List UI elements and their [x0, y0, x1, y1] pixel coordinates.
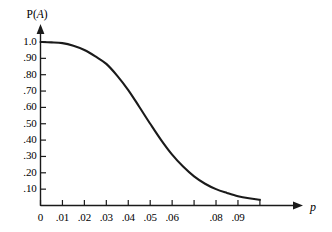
y-tick-label: .80: [23, 69, 36, 80]
x-axis-arrowhead: [293, 202, 303, 210]
y-tick-label: .40: [23, 134, 36, 145]
y-axis-title-p: P(: [27, 8, 37, 20]
chart-figure: P(A) p 1.0.90.80.70.60.50.40.30.20.10 0.…: [0, 0, 332, 232]
axes-group: [37, 24, 303, 209]
x-axis-title: p: [310, 201, 316, 213]
y-tick-label: .30: [23, 150, 36, 161]
y-axis-arrowhead: [37, 24, 45, 34]
y-axis-title: P(A): [27, 8, 48, 20]
chart-plot-area: [0, 0, 332, 232]
y-tick-label: .60: [23, 101, 36, 112]
y-tick-label: .90: [23, 52, 36, 63]
y-tick-label: .20: [23, 167, 36, 178]
y-axis-title-a: A: [37, 8, 44, 20]
data-curve-pa: [41, 42, 260, 200]
x-tick-label: .06: [152, 212, 192, 223]
x-tick-label: .09: [218, 212, 258, 223]
y-tick-label: .70: [23, 85, 36, 96]
y-axis-title-paren: ): [44, 8, 48, 20]
y-tick-label: .10: [23, 183, 36, 194]
y-tick-label: 1.0: [23, 36, 36, 47]
y-tick-label: .50: [23, 118, 36, 129]
